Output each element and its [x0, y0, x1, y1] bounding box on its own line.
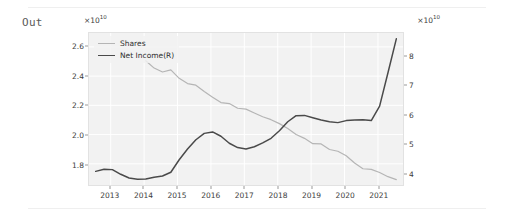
x-tick-mark	[109, 186, 110, 189]
x-tick-label: 2014	[134, 191, 153, 200]
legend-swatch-net-income-icon	[98, 55, 115, 56]
x-tick-mark	[311, 186, 312, 189]
chart-figure: ×1010 ×1010 2.62.42.22.01.8 87654 201320…	[60, 14, 440, 206]
left-tick-mark	[85, 46, 88, 47]
output-prompt-label: Out	[22, 16, 43, 29]
right-tick-mark	[404, 173, 407, 174]
left-tick-mark	[85, 105, 88, 106]
x-tick-label: 2019	[302, 191, 321, 200]
x-tick-label: 2021	[369, 191, 388, 200]
right-axis-exponent-base: ×10	[417, 16, 433, 25]
x-tick-mark	[210, 186, 211, 189]
legend-item-net-income[interactable]: Net Income(R)	[98, 51, 174, 60]
left-axis-exponent-label: ×1010	[84, 14, 107, 25]
cell-divider-top	[28, 7, 486, 8]
right-tick-mark	[404, 56, 407, 57]
right-tick-label: 4	[409, 169, 414, 178]
x-tick-mark	[177, 186, 178, 189]
chart-legend: Shares Net Income(R)	[94, 36, 179, 63]
left-tick-mark	[85, 164, 88, 165]
x-tick-mark	[378, 186, 379, 189]
legend-label-net-income: Net Income(R)	[120, 51, 174, 60]
x-tick-label: 2016	[201, 191, 220, 200]
left-tick-label: 2.6	[72, 42, 84, 51]
left-tick-mark	[85, 134, 88, 135]
left-axis-exponent-base: ×10	[84, 16, 100, 25]
right-tick-label: 6	[409, 110, 414, 119]
left-tick-label: 1.8	[72, 160, 84, 169]
right-tick-label: 7	[409, 81, 414, 90]
right-axis-exponent-label: ×1010	[417, 14, 440, 25]
x-tick-mark	[244, 186, 245, 189]
left-tick-mark	[85, 75, 88, 76]
legend-swatch-shares-icon	[98, 43, 115, 44]
left-tick-label: 2.4	[72, 71, 84, 80]
notebook-output-cell: Out ×1010 ×1010 2.62.42.22.01.8 87654 20…	[0, 0, 514, 221]
right-axis-exponent-power: 10	[433, 14, 440, 20]
x-tick-mark	[277, 186, 278, 189]
legend-item-shares[interactable]: Shares	[98, 39, 174, 48]
x-tick-mark	[345, 186, 346, 189]
left-tick-label: 2.0	[72, 130, 84, 139]
left-tick-label: 2.2	[72, 101, 84, 110]
axes-annotations: 2.62.42.22.01.8 87654 201320142015201620…	[88, 32, 404, 186]
right-tick-mark	[404, 144, 407, 145]
x-tick-label: 2013	[100, 191, 119, 200]
legend-label-shares: Shares	[120, 39, 146, 48]
cell-divider-bottom	[28, 208, 486, 209]
right-tick-mark	[404, 114, 407, 115]
left-axis-exponent-power: 10	[100, 14, 107, 20]
x-tick-label: 2015	[168, 191, 187, 200]
x-tick-label: 2020	[336, 191, 355, 200]
right-tick-label: 8	[409, 52, 414, 61]
x-tick-mark	[143, 186, 144, 189]
x-tick-label: 2018	[268, 191, 287, 200]
right-tick-mark	[404, 85, 407, 86]
right-tick-label: 5	[409, 140, 414, 149]
x-tick-label: 2017	[235, 191, 254, 200]
